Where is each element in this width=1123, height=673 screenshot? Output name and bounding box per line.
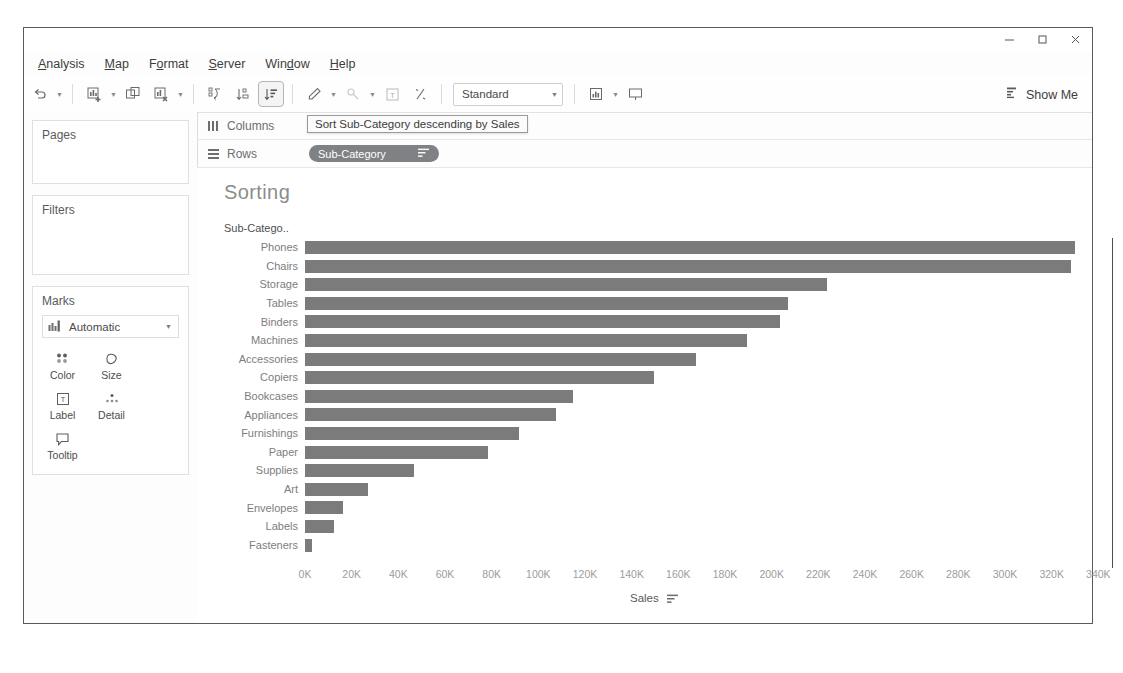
pages-title: Pages — [33, 121, 188, 147]
x-axis-tick-label: 100K — [526, 568, 551, 580]
bar-mark[interactable] — [305, 390, 573, 403]
bar-row: Phones — [197, 238, 1112, 257]
bar-mark[interactable] — [305, 278, 827, 291]
bar-row-label[interactable]: Furnishings — [197, 427, 305, 439]
bar-row-label[interactable]: Copiers — [197, 371, 305, 383]
bar-mark[interactable] — [305, 408, 556, 421]
close-icon[interactable] — [1059, 28, 1092, 51]
fit-select[interactable]: Standard ▼ — [453, 83, 563, 106]
x-axis-title[interactable]: Sales — [197, 592, 1112, 606]
bar-row-label[interactable]: Paper — [197, 446, 305, 458]
x-axis-tick-label: 340K — [1086, 568, 1111, 580]
menu-item-format[interactable]: Format — [139, 55, 199, 73]
bar-row: Fasteners — [197, 536, 1112, 555]
bar-row-label[interactable]: Bookcases — [197, 390, 305, 402]
columns-shelf[interactable]: Columns Sort Sub-Category descending by … — [197, 112, 1092, 140]
clear-sheet-icon[interactable] — [148, 81, 174, 107]
menu-item-server[interactable]: Server — [198, 55, 255, 73]
bar-row-label[interactable]: Storage — [197, 278, 305, 290]
marks-tooltip-button[interactable]: Tooltip — [38, 426, 87, 466]
bar-row: Tables — [197, 294, 1112, 313]
bar-mark[interactable] — [305, 334, 747, 347]
bar-row-label[interactable]: Chairs — [197, 260, 305, 272]
bar-row-label[interactable]: Envelopes — [197, 502, 305, 514]
mark-type-icon — [48, 320, 63, 334]
mark-type-select[interactable]: Automatic ▼ — [42, 315, 179, 338]
new-worksheet-icon[interactable] — [81, 81, 107, 107]
bar-mark[interactable] — [305, 483, 368, 496]
marks-label-button[interactable]: T Label — [38, 386, 87, 426]
bar-track — [305, 517, 1112, 536]
menu-item-window[interactable]: Window — [255, 55, 319, 73]
sort-ascending-icon[interactable] — [230, 81, 256, 107]
bar-mark[interactable] — [305, 539, 312, 552]
maximize-icon[interactable] — [1026, 28, 1059, 51]
group-caret-icon[interactable]: ▼ — [367, 83, 378, 105]
x-axis-tick-label: 320K — [1039, 568, 1064, 580]
bar-track — [305, 331, 1112, 350]
bar-row: Machines — [197, 331, 1112, 350]
bar-row-label[interactable]: Art — [197, 483, 305, 495]
cards-icon[interactable] — [583, 81, 609, 107]
x-axis-tick-label: 220K — [806, 568, 831, 580]
bar-row-label[interactable]: Binders — [197, 316, 305, 328]
marks-title: Marks — [33, 287, 188, 313]
fix-axes-icon[interactable] — [407, 81, 433, 107]
sort-descending-icon[interactable] — [258, 81, 284, 107]
rows-pill-sub-category[interactable]: Sub-Category — [309, 145, 439, 162]
marks-detail-button[interactable]: Detail — [87, 386, 136, 426]
bar-row-label[interactable]: Labels — [197, 520, 305, 532]
group-icon[interactable] — [340, 81, 366, 107]
duplicate-sheet-icon[interactable] — [120, 81, 146, 107]
bar-mark[interactable] — [305, 371, 654, 384]
bar-row-label[interactable]: Tables — [197, 297, 305, 309]
bar-row-label[interactable]: Phones — [197, 241, 305, 253]
x-axis-tick-label: 120K — [573, 568, 598, 580]
label-T-icon[interactable]: T — [379, 81, 405, 107]
columns-label: Columns — [227, 119, 289, 133]
undo-caret-icon[interactable]: ▼ — [54, 83, 65, 105]
cards-caret-icon[interactable]: ▼ — [610, 83, 621, 105]
clear-sheet-caret-icon[interactable]: ▼ — [175, 83, 186, 105]
bar-mark[interactable] — [305, 427, 519, 440]
new-worksheet-caret-icon[interactable]: ▼ — [108, 83, 119, 105]
bar-mark[interactable] — [305, 241, 1075, 254]
minimize-icon[interactable] — [993, 28, 1026, 51]
menu-item-help[interactable]: Help — [320, 55, 366, 73]
highlighter-icon[interactable] — [301, 81, 327, 107]
presentation-icon[interactable] — [622, 81, 648, 107]
swap-icon[interactable] — [202, 81, 228, 107]
pages-card[interactable]: Pages — [32, 120, 189, 184]
menu-item-analysis[interactable]: Analysis — [28, 55, 95, 73]
x-axis-tick-label: 80K — [482, 568, 501, 580]
bar-mark[interactable] — [305, 501, 343, 514]
bar-mark[interactable] — [305, 353, 696, 366]
rows-shelf[interactable]: Rows Sub-Category — [197, 140, 1092, 168]
bar-mark[interactable] — [305, 297, 788, 310]
menu-item-map[interactable]: Map — [95, 55, 139, 73]
x-axis-tick-label: 280K — [946, 568, 971, 580]
highlight-caret-icon[interactable]: ▼ — [328, 83, 339, 105]
bar-mark[interactable] — [305, 520, 334, 533]
bar-mark[interactable] — [305, 446, 488, 459]
x-axis-tick-label: 180K — [713, 568, 738, 580]
bar-mark[interactable] — [305, 260, 1071, 273]
x-axis-tick-label: 60K — [436, 568, 455, 580]
tableau-window: Analysis Map Format Server Window Help ▼… — [23, 27, 1093, 624]
bar-row-label[interactable]: Appliances — [197, 409, 305, 421]
marks-size-button[interactable]: Size — [87, 346, 136, 386]
bar-mark[interactable] — [305, 315, 780, 328]
marks-color-button[interactable]: Color — [38, 346, 87, 386]
bar-row-label[interactable]: Fasteners — [197, 539, 305, 551]
undo-icon[interactable] — [27, 81, 53, 107]
x-axis-ticks: 0K20K40K60K80K100K120K140K160K180K200K22… — [197, 568, 1123, 586]
filters-card[interactable]: Filters — [32, 195, 189, 275]
x-axis-tick-label: 140K — [619, 568, 644, 580]
bar-row-label[interactable]: Supplies — [197, 464, 305, 476]
bar-row-label[interactable]: Machines — [197, 334, 305, 346]
bar-track — [305, 536, 1112, 555]
bar-mark[interactable] — [305, 464, 414, 477]
bar-track — [305, 368, 1112, 387]
bar-row-label[interactable]: Accessories — [197, 353, 305, 365]
show-me-button[interactable]: Show Me — [1005, 86, 1078, 103]
